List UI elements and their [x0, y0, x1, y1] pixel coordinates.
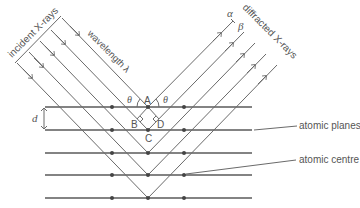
atom [146, 173, 150, 177]
atomic-planes-leader [254, 126, 297, 130]
atom [182, 128, 186, 132]
segment-AB [137, 107, 148, 119]
alpha-label: α [227, 7, 233, 19]
incident-rays [17, 18, 148, 198]
atomic-planes-label: atomic planes [299, 120, 360, 131]
atom [146, 196, 150, 200]
atom [146, 128, 150, 132]
diffracted-ray-5 [148, 65, 277, 198]
theta-arc-right [156, 99, 159, 107]
wavelength-label: wavelength λ [85, 27, 133, 75]
atom [182, 173, 186, 177]
arrow-icon [236, 54, 244, 62]
theta-right-label: θ [163, 94, 168, 105]
arrow-icon [45, 46, 54, 55]
right-angle-mark-B [140, 116, 143, 122]
spacing-d-label: d [32, 112, 38, 124]
point-B-label: B [131, 119, 138, 130]
atom [110, 151, 114, 155]
incident-ray-4 [29, 52, 148, 175]
arrow-icon [247, 65, 255, 73]
atom [182, 196, 186, 200]
atom [182, 151, 186, 155]
point-D-label: D [157, 119, 164, 130]
arrow-icon [56, 35, 65, 44]
theta-arc-left [137, 99, 140, 107]
incident-xrays-label: incident X-rays [6, 5, 61, 60]
diffracted-rays [148, 21, 277, 198]
point-A-label: A [144, 95, 151, 106]
arrow-icon [213, 33, 221, 41]
theta-left-label: θ [127, 94, 132, 105]
arrow-icon [70, 26, 79, 35]
arrow-icon [258, 76, 266, 84]
spacing-d-marker [41, 108, 47, 129]
segment-AD [148, 107, 159, 119]
atom [110, 173, 114, 177]
atom [146, 151, 150, 155]
atom [110, 105, 114, 109]
point-C-label: C [145, 133, 152, 144]
diffracted-xrays-label: diffracted X-rays [241, 2, 300, 61]
arrow-icon [34, 58, 43, 67]
bragg-diffraction-diagram: incident X-rays wavelength λ diffracted … [0, 0, 360, 208]
atom [182, 105, 186, 109]
beta-label: β [237, 20, 244, 32]
atomic-centre-leader [186, 160, 296, 174]
atom [110, 128, 114, 132]
atomic-centre-label: atomic centre [299, 154, 359, 165]
atom [110, 196, 114, 200]
arrow-icon [23, 69, 32, 78]
right-angle-mark-D [153, 116, 156, 122]
arrow-icon [225, 43, 233, 51]
